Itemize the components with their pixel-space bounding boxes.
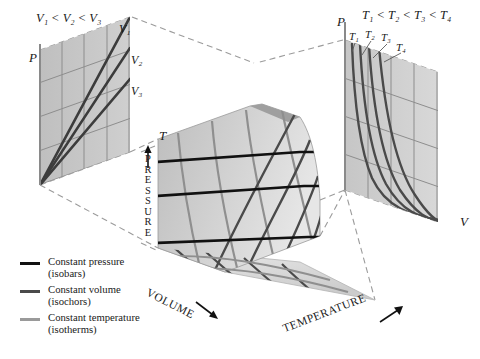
right-panel-v-axis-label: V: [460, 214, 468, 230]
isotherm-label-t2: T₂: [365, 28, 375, 40]
legend-swatch-icon: [20, 318, 40, 321]
isotherm-label-t1: T₁: [349, 30, 359, 42]
left-panel-pt-plane: [36, 12, 134, 186]
pressure-axis-letter: P: [141, 154, 155, 165]
legend-item: Constant volume(isochors): [20, 284, 140, 307]
legend-label-secondary: (isobars): [48, 268, 124, 280]
pressure-axis-letter: E: [141, 228, 155, 239]
pressure-axis-label: PRESSURE: [141, 154, 155, 238]
legend-swatch-icon: [20, 290, 40, 293]
right-panel-p-axis-label: P: [337, 14, 345, 30]
isochor-label-v2: V₂: [131, 53, 143, 68]
pressure-axis-letter: E: [141, 175, 155, 186]
legend-swatch-icon: [20, 262, 40, 265]
legend-label: Constant temperature(isotherms): [48, 312, 140, 335]
connector-right-edge: [320, 190, 345, 236]
volume-arrow-head: [209, 311, 218, 320]
legend-label-primary: Constant volume: [48, 284, 121, 296]
legend-label: Constant volume(isochors): [48, 284, 121, 307]
pressure-axis-letter: S: [141, 196, 155, 207]
legend-label-secondary: (isotherms): [48, 324, 140, 336]
connector-left-surface: [130, 139, 158, 152]
projection-line-top-right: [256, 40, 343, 63]
right-panel-pv-plane: [341, 22, 446, 234]
connector-right-base: [345, 190, 375, 300]
connector-right-surface: [320, 190, 345, 200]
legend-label-primary: Constant pressure: [48, 256, 124, 268]
legend: Constant pressure(isobars)Constant volum…: [20, 256, 140, 340]
volume-arrow-shaft: [196, 302, 213, 315]
isochor-label-v3: V₃: [131, 84, 143, 99]
volume-inequality-label: V₁ < V₂ < V₃: [36, 11, 101, 26]
pvt-surface-figure: V₁ < V₂ < V₃ T₁ < T₂ < T₃ < T₄ P T P V V…: [0, 0, 480, 359]
surface-main-sheet: [158, 104, 320, 272]
temperature-arrow-shaft: [380, 310, 398, 322]
temperature-arrow-head: [394, 306, 403, 315]
legend-item: Constant temperature(isotherms): [20, 312, 140, 335]
projection-line-top-left: [132, 17, 254, 63]
legend-label-secondary: (isochors): [48, 296, 121, 308]
legend-label-primary: Constant temperature: [48, 312, 140, 324]
pressure-arrow-head: [144, 145, 151, 153]
legend-item: Constant pressure(isobars): [20, 256, 140, 279]
pressure-tick-bottom: [141, 243, 156, 250]
legend-label: Constant pressure(isobars): [48, 256, 124, 279]
left-panel-t-axis-label: T: [159, 128, 166, 144]
pvt-surface-3d: [156, 104, 375, 318]
isotherm-label-t3: T₃: [381, 31, 391, 43]
temperature-inequality-label: T₁ < T₂ < T₃ < T₄: [362, 8, 451, 23]
isochor-label-v1: V₁: [119, 22, 131, 37]
left-panel-p-axis-label: P: [29, 50, 37, 66]
isotherm-label-t4: T₄: [396, 41, 406, 53]
pressure-axis-letter: R: [141, 217, 155, 228]
